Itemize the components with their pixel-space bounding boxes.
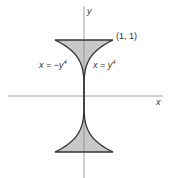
y-axis-label: y bbox=[86, 6, 92, 16]
left-curve-label-exponent: 4 bbox=[64, 59, 68, 65]
region-diagram: y x (1, 1) x = −y4 x = y4 bbox=[0, 0, 172, 178]
right-curve-label-base: x = y bbox=[92, 60, 113, 70]
left-curve-label: x = −y4 bbox=[38, 59, 68, 70]
left-curve-label-base: x = −y bbox=[38, 60, 64, 70]
right-curve-label: x = y4 bbox=[92, 59, 116, 70]
x-axis-label: x bbox=[155, 97, 161, 107]
point-label: (1, 1) bbox=[116, 31, 137, 41]
right-curve-label-exponent: 4 bbox=[112, 59, 116, 65]
